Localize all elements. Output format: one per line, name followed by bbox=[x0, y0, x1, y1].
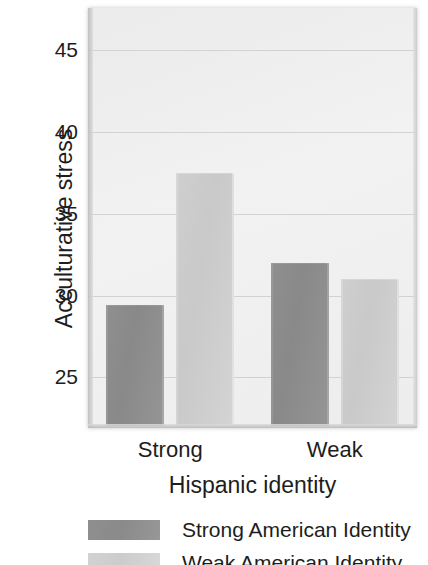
y-axis-tick-label: 35 bbox=[32, 203, 78, 224]
legend-swatch bbox=[88, 553, 160, 565]
bar bbox=[106, 305, 164, 426]
y-axis-tick-label: 45 bbox=[32, 39, 78, 60]
plot-area bbox=[88, 8, 417, 428]
x-axis-title: Hispanic identity bbox=[88, 472, 417, 499]
legend: Strong American IdentityWeak American Id… bbox=[88, 513, 428, 565]
gridline bbox=[88, 50, 417, 51]
legend-swatch bbox=[88, 520, 160, 540]
legend-label: Strong American Identity bbox=[182, 518, 411, 542]
chart-figure: Acculturative stress 4540353025 StrongWe… bbox=[0, 0, 428, 565]
x-axis-line bbox=[88, 424, 417, 428]
y-axis-tick-label: 40 bbox=[32, 121, 78, 142]
y-axis-tick-labels: 4540353025 bbox=[32, 0, 78, 565]
y-axis-tick-label: 30 bbox=[32, 285, 78, 306]
legend-item: Weak American Identity bbox=[88, 546, 428, 565]
bar bbox=[341, 279, 399, 426]
plot-inner bbox=[88, 8, 417, 428]
plot-right-edge bbox=[413, 8, 417, 428]
legend-label: Weak American Identity bbox=[182, 551, 402, 565]
x-axis-category-label: Weak bbox=[253, 437, 418, 463]
x-axis-category-label: Strong bbox=[88, 437, 253, 463]
bar bbox=[176, 173, 234, 426]
y-axis-tick-label: 25 bbox=[32, 366, 78, 387]
bar bbox=[271, 263, 329, 426]
gridline bbox=[88, 214, 417, 215]
gridline bbox=[88, 132, 417, 133]
plot-left-edge bbox=[88, 8, 93, 428]
legend-item: Strong American Identity bbox=[88, 513, 428, 546]
